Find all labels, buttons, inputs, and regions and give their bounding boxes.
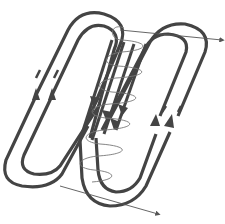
helical-coil bbox=[80, 27, 143, 182]
winding-diagram bbox=[0, 0, 225, 224]
left-bottom-loop bbox=[5, 96, 100, 187]
arrow-up-left-1-icon bbox=[32, 70, 40, 100]
arrow-up-right-2-icon bbox=[164, 106, 181, 128]
arrow-up-right-1-icon bbox=[150, 106, 166, 126]
